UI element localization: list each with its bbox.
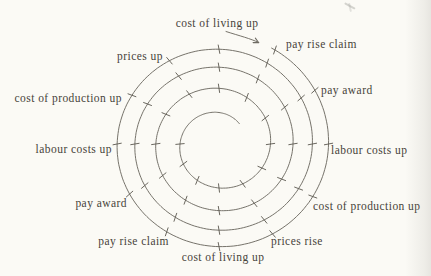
label-cost-of-living-up-top: cost of living up	[176, 18, 259, 30]
label-cost-of-production-up-left: cost of production up	[14, 93, 122, 105]
spiral-tick	[176, 73, 181, 80]
spiral-tick	[252, 200, 257, 207]
spiral-tick	[196, 176, 199, 184]
label-cost-of-production-up-right: cost of production up	[313, 201, 421, 213]
spiral-tick	[266, 59, 269, 67]
spiral-tick	[159, 173, 166, 178]
spiral-tick	[266, 143, 274, 144]
spiral-tick	[167, 58, 173, 65]
spiral-tick	[295, 187, 303, 190]
spiral-tick	[126, 191, 132, 197]
spiral-tick	[262, 217, 267, 224]
label-prices-up-top-left: prices up	[117, 51, 163, 63]
label-labour-costs-up-left: labour costs up	[36, 144, 112, 156]
label-pay-rise-claim-top-right: pay rise claim	[286, 39, 357, 51]
spiral-tick	[219, 184, 220, 192]
spiral-tick	[176, 144, 184, 145]
label-prices-rise-bottom-right: prices rise	[271, 236, 323, 248]
label-pay-rise-claim-bottom-left: pay rise claim	[98, 236, 169, 248]
spiral-tick	[256, 75, 259, 83]
spiral-tick	[180, 161, 187, 166]
spiral-tick	[142, 183, 149, 189]
spiral-tick	[309, 195, 317, 198]
label-pay-award-left: pay award	[75, 198, 127, 210]
spiral-tick	[258, 166, 266, 169]
spiral-tick	[298, 95, 305, 101]
spiral-tick	[240, 180, 245, 187]
spiral-tick	[278, 178, 286, 181]
spiral-tick	[184, 196, 187, 204]
label-pay-award-right: pay award	[321, 85, 373, 97]
spiral-tick	[187, 91, 192, 98]
spiral-tick-marks	[113, 45, 333, 251]
label-cost-of-living-up-bottom: cost of living up	[182, 252, 265, 264]
spiral-curve	[117, 48, 329, 247]
spiral-tick	[218, 84, 219, 92]
spiral-tick	[281, 105, 288, 111]
flow-arrow	[226, 32, 259, 43]
spiral-tick	[144, 103, 152, 106]
spiral-tick	[162, 113, 170, 116]
spiral-tick	[262, 115, 269, 120]
label-labour-costs-up-right: labour costs up	[331, 145, 407, 157]
spiral-tick	[312, 88, 318, 94]
spiral-diagram	[0, 0, 431, 276]
spiral-tick	[245, 93, 248, 101]
scanned-page: cost of living up pay rise claim pay awa…	[0, 0, 431, 276]
spiral-tick	[152, 143, 160, 144]
